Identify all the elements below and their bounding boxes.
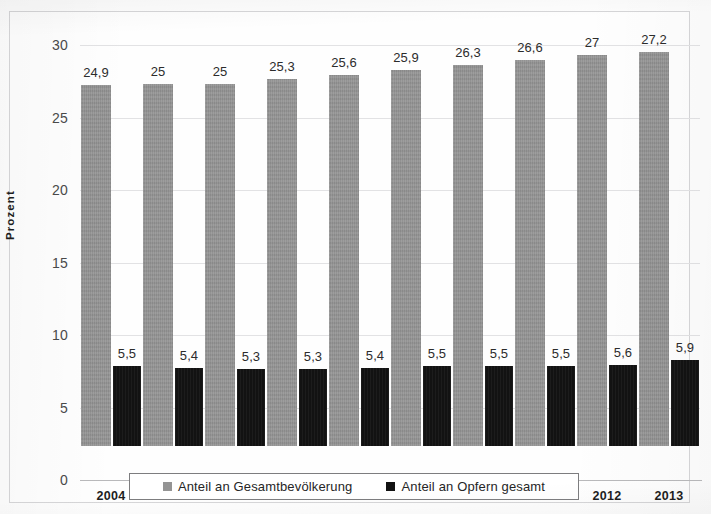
y-axis-tick-label: 15 [24, 255, 68, 271]
bar-group: 275,6 [576, 11, 638, 447]
bar-black-2004 [113, 366, 141, 446]
bar-black-2006 [237, 369, 265, 446]
bar-gray-2013 [639, 52, 669, 446]
y-axis-tick-label: 10 [24, 327, 68, 343]
bar-group: 25,65,4 [328, 11, 390, 447]
legend-entry: Anteil an Gesamtbevölkerung [163, 479, 353, 494]
x-axis-tick-label: 2012 [576, 489, 638, 503]
value-label: 25 [197, 64, 243, 79]
bar-gray-2004 [81, 85, 111, 446]
value-label: 27 [569, 35, 615, 50]
value-label: 26,3 [445, 45, 491, 60]
value-label: 25,3 [259, 59, 305, 74]
chart-frame: Prozent 051015202530 24,95,5255,4255,325… [9, 11, 690, 503]
bar-gray-2009 [391, 70, 421, 446]
bar-group: 255,4 [142, 11, 204, 447]
bar-black-2005 [175, 368, 203, 446]
x-axis-tick-label: 2013 [638, 489, 700, 503]
bar-black-2007 [299, 369, 327, 446]
bar-group: 26,35,5 [452, 11, 514, 447]
bar-group: 25,35,3 [266, 11, 328, 447]
y-axis-title: Prozent [4, 190, 16, 240]
bar-group: 27,25,9 [638, 11, 700, 447]
legend-entry: Anteil an Opfern gesamt [386, 479, 545, 494]
value-label: 25 [135, 64, 181, 79]
bar-black-2013 [671, 360, 699, 446]
bar-black-2012 [609, 365, 637, 446]
bar-gray-2012 [577, 55, 607, 447]
bar-group: 255,3 [204, 11, 266, 447]
bar-black-2008 [361, 368, 389, 446]
y-axis-tick-label: 0 [24, 472, 68, 488]
bar-gray-2011 [515, 60, 545, 446]
value-label: 26,6 [507, 40, 553, 55]
value-label: 27,2 [631, 32, 677, 47]
bar-group: 26,65,5 [514, 11, 576, 447]
y-axis-tick-label: 30 [24, 37, 68, 53]
bar-group: 24,95,5 [80, 11, 142, 447]
value-label: 25,9 [383, 50, 429, 65]
bar-gray-2008 [329, 75, 359, 446]
bar-black-2010 [485, 366, 513, 446]
legend-swatch-icon [386, 482, 395, 491]
legend-swatch-icon [163, 482, 172, 491]
value-label: 24,9 [73, 65, 119, 80]
value-label: 25,6 [321, 55, 367, 70]
y-axis-tick-label: 20 [24, 182, 68, 198]
chart-page: Prozent 051015202530 24,95,5255,4255,325… [0, 0, 711, 514]
legend-label: Anteil an Opfern gesamt [401, 479, 545, 494]
legend-label: Anteil an Gesamtbevölkerung [178, 479, 353, 494]
bar-black-2009 [423, 366, 451, 446]
bar-group: 25,95,5 [390, 11, 452, 447]
value-label: 5,9 [663, 340, 707, 355]
bar-gray-2006 [205, 84, 235, 447]
bar-gray-2007 [267, 79, 297, 446]
bar-gray-2005 [143, 84, 173, 447]
chart-legend: Anteil an GesamtbevölkerungAnteil an Opf… [129, 473, 579, 500]
y-axis-tick-label: 5 [24, 400, 68, 416]
bar-black-2011 [547, 366, 575, 446]
y-axis-tick-label: 25 [24, 110, 68, 126]
plot-area: 051015202530 24,95,5255,4255,325,35,325,… [80, 45, 700, 447]
bar-gray-2010 [453, 65, 483, 446]
